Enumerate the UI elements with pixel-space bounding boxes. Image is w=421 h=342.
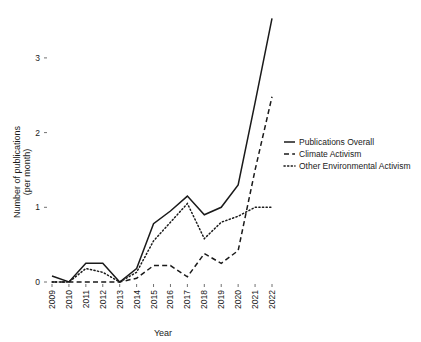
x-tick-label: 2012 — [98, 290, 108, 309]
publications-line-chart: 0123 20092010201120122013201420152016201… — [0, 0, 421, 342]
y-axis-title-line2: (per month) — [22, 149, 32, 196]
y-axis-title-line1: Number of publications — [12, 125, 22, 218]
y-tick-label: 1 — [35, 202, 40, 212]
x-tick-label: 2018 — [199, 290, 209, 309]
x-tick-label: 2010 — [64, 290, 74, 309]
legend-label: Other Environmental Activism — [299, 161, 410, 171]
legend-label: Climate Activism — [299, 149, 361, 159]
x-tick-label: 2016 — [165, 290, 175, 309]
y-tick-label: 3 — [35, 53, 40, 63]
x-tick-label: 2014 — [132, 290, 142, 309]
x-tick-label: 2022 — [267, 290, 277, 309]
x-tick-label: 2013 — [115, 290, 125, 309]
x-tick-label: 2020 — [233, 290, 243, 309]
chart-figure: 0123 20092010201120122013201420152016201… — [0, 0, 421, 342]
x-tick-label: 2011 — [81, 290, 91, 309]
legend-item-2[interactable]: Other Environmental Activism — [284, 161, 410, 171]
x-tick-label: 2019 — [216, 290, 226, 309]
x-tick-label: 2017 — [182, 290, 192, 309]
legend-label: Publications Overall — [299, 137, 374, 147]
y-tick-label: 0 — [35, 277, 40, 287]
x-axis-title: Year — [154, 328, 172, 338]
x-tick-label: 2009 — [47, 290, 57, 309]
y-tick-label: 2 — [35, 128, 40, 138]
x-tick-label: 2015 — [149, 290, 159, 309]
x-tick-label: 2021 — [250, 290, 260, 309]
